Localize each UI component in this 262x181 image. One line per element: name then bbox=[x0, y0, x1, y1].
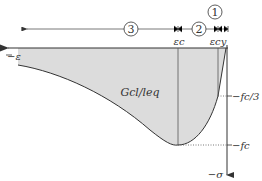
region-1-marker: 1 bbox=[208, 5, 222, 19]
eps-c-label: εc bbox=[174, 36, 185, 47]
svg-text:2: 2 bbox=[196, 23, 203, 36]
neg-sigma-label: −σ bbox=[208, 169, 224, 180]
svg-text:1: 1 bbox=[212, 6, 219, 19]
region-3-marker: 3 bbox=[124, 22, 138, 36]
neg-eps-label: −ε bbox=[7, 51, 21, 62]
energy-area bbox=[6, 48, 226, 145]
stress-strain-diagram: 3 2 1 εc εcy −ε Gcl/leq −fc/3 −fc −σ bbox=[0, 0, 262, 181]
fc-third-label: −fc/3 bbox=[232, 91, 259, 102]
region-2-marker: 2 bbox=[192, 22, 206, 36]
eps-cy-label: εcy bbox=[210, 36, 227, 47]
area-label: Gcl/leq bbox=[120, 86, 159, 99]
svg-text:3: 3 bbox=[128, 23, 135, 36]
fc-label: −fc bbox=[232, 140, 250, 151]
